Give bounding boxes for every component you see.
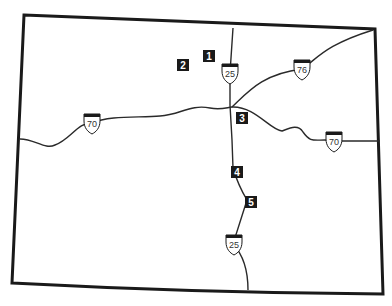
state-border [12,15,383,294]
marker-label: 2 [180,60,186,71]
marker-label: 1 [206,51,212,62]
marker-1[interactable]: 1 [203,50,215,62]
marker-3[interactable]: 3 [236,112,248,124]
marker-label: 5 [248,197,254,208]
shield-label: 76 [297,65,307,75]
shield-label: 25 [225,69,235,79]
marker-4[interactable]: 4 [231,166,243,178]
colorado-map: 25 25 70 70 76 1 2 3 4 5 [0,0,392,306]
marker-label: 3 [239,113,245,124]
marker-label: 4 [234,167,240,178]
shield-label: 70 [87,119,97,129]
shield-label: 70 [329,137,339,147]
shield-label: 25 [229,240,239,250]
marker-5[interactable]: 5 [245,196,257,208]
marker-2[interactable]: 2 [177,59,189,71]
